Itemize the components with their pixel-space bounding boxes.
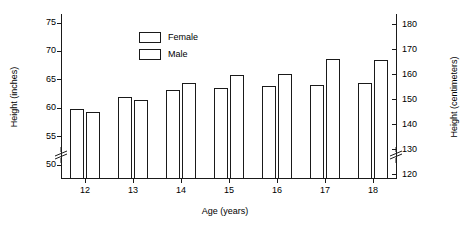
bar-male-age-15 [230,75,244,179]
y-ticklabel-right-160: 160 [402,70,442,79]
bar-chart-figure: Height (inches) Height (centimeters) Age… [0,0,465,231]
y-tick-left-70 [57,51,62,52]
bar-female-age-18 [358,83,372,179]
y-ticklabel-left-70: 70 [16,46,56,55]
chart-legend: Female Male [139,30,198,64]
legend-item-female: Female [139,30,198,45]
y-tick-left-60 [57,108,62,109]
x-ticklabel-13: 13 [113,186,153,195]
bar-male-age-17 [326,59,340,179]
bar-male-age-12 [86,112,100,179]
bar-female-age-14 [166,90,180,179]
y-tick-left-50 [57,165,62,166]
legend-label-male: Male [168,50,188,59]
legend-label-female: Female [168,33,198,42]
plot-area: 505560657075 120130140150160170180 12131… [61,14,397,179]
x-ticklabel-18: 18 [353,186,393,195]
x-ticklabel-12: 12 [65,186,105,195]
y-tick-right-120 [392,174,397,175]
x-tick-13 [133,179,134,183]
y-tick-left-55 [57,136,62,137]
legend-swatch-male-icon [139,49,161,60]
y-ticklabel-right-180: 180 [402,20,442,29]
y-axis-line-left [61,14,62,179]
y-axis-title-right: Height (centimeters) [449,42,459,152]
y-tick-right-150 [392,99,397,100]
y-tick-right-140 [392,124,397,125]
y-ticklabel-right-130: 130 [402,145,442,154]
x-ticklabel-16: 16 [257,186,297,195]
bar-male-age-13 [134,100,148,179]
y-ticklabel-left-60: 60 [16,103,56,112]
bar-female-age-17 [310,85,324,179]
x-tick-12 [85,179,86,183]
y-tick-right-160 [392,74,397,75]
y-ticklabel-right-150: 150 [402,95,442,104]
y-tick-right-170 [392,49,397,50]
bar-female-age-16 [262,86,276,179]
x-tick-17 [325,179,326,183]
y-ticklabel-left-50: 50 [16,160,56,169]
y-ticklabel-left-75: 75 [16,18,56,27]
x-tick-15 [229,179,230,183]
y-ticklabel-left-65: 65 [16,75,56,84]
bar-female-age-15 [214,88,228,179]
bar-male-age-14 [182,83,196,179]
x-ticklabel-17: 17 [305,186,345,195]
bar-male-age-16 [278,74,292,179]
legend-item-male: Male [139,47,198,62]
x-ticklabel-14: 14 [161,186,201,195]
x-tick-14 [181,179,182,183]
y-axis-line-right [396,14,397,179]
legend-swatch-female-icon [139,32,161,43]
y-ticklabel-right-120: 120 [402,170,442,179]
y-tick-right-130 [392,149,397,150]
bar-male-age-18 [374,60,388,179]
bar-female-age-12 [70,109,84,179]
x-tick-16 [277,179,278,183]
y-tick-right-180 [392,24,397,25]
y-tick-left-75 [57,23,62,24]
bar-female-age-13 [118,97,132,180]
x-ticklabel-15: 15 [209,186,249,195]
y-tick-left-65 [57,79,62,80]
y-ticklabel-right-140: 140 [402,120,442,129]
y-ticklabel-left-55: 55 [16,132,56,141]
y-ticklabel-right-170: 170 [402,45,442,54]
x-tick-18 [373,179,374,183]
x-axis-title: Age (years) [60,206,390,216]
